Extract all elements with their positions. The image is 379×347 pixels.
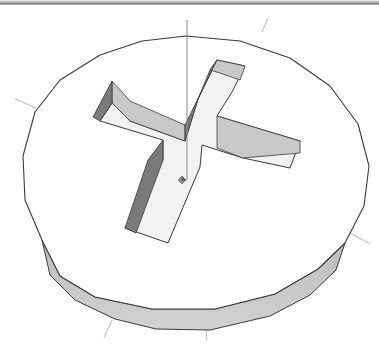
axis-line: [350, 233, 370, 244]
axis-line: [262, 18, 268, 32]
axis-line: [104, 320, 112, 338]
axis-line: [206, 330, 207, 340]
model-viewport[interactable]: [0, 0, 379, 347]
axis-line: [15, 99, 36, 108]
screw-head-model: [0, 0, 379, 347]
